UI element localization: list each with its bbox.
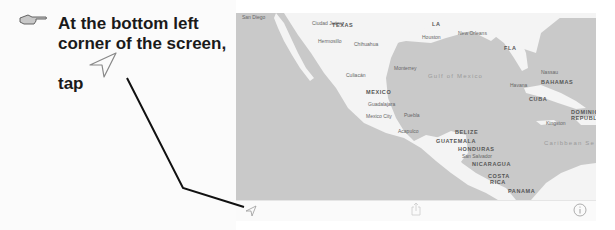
instruction-line-2: corner of the screen, <box>58 34 226 54</box>
city-label: Houston <box>422 34 441 40</box>
city-label: New Orleans <box>458 30 487 36</box>
region-label: GUATEMALA <box>436 138 476 144</box>
bottom-toolbar <box>236 200 596 221</box>
location-arrow-icon[interactable] <box>245 203 257 221</box>
region-label: LA <box>432 21 441 27</box>
city-label: Mexico City <box>366 113 392 119</box>
city-label: Kingston <box>546 120 565 126</box>
info-icon[interactable] <box>573 203 587 221</box>
city-label: Hermosillo <box>318 38 342 44</box>
share-icon[interactable] <box>411 202 421 220</box>
map-landmass <box>236 13 596 200</box>
region-label: NICARAGUA <box>472 161 511 167</box>
city-label: San Diego <box>242 14 265 20</box>
maps-screen: San Diego Ciudad Juárez Hermosillo Chihu… <box>236 13 596 220</box>
region-label: BELIZE <box>455 129 478 135</box>
pointing-hand-icon <box>18 12 48 32</box>
city-label: San Salvador <box>462 153 492 159</box>
water-label: Gulf of Mexico <box>428 73 483 79</box>
city-label: Monterrey <box>394 65 417 71</box>
water-label: Caribbean Se <box>544 140 595 146</box>
region-label: HONDURAS <box>458 146 495 152</box>
region-label: TEXAS <box>332 22 353 28</box>
tap-label: tap <box>58 74 84 94</box>
region-label: CUBA <box>529 96 547 102</box>
city-label: Acapulco <box>398 128 419 134</box>
city-label: Chihuahua <box>354 41 378 47</box>
location-arrow-icon <box>88 50 118 84</box>
city-label: Guadalajara <box>368 101 395 107</box>
city-label: Nassau <box>541 69 558 75</box>
region-label: DOMINICAN REPUBLIC <box>571 109 596 121</box>
instruction-panel: At the bottom left corner of the screen,… <box>0 0 236 230</box>
instruction-line-1: At the bottom left <box>58 14 226 34</box>
region-label: COSTA RICA <box>488 173 508 185</box>
region-label: PANAMA <box>508 188 535 194</box>
city-label: Puebla <box>404 112 420 118</box>
region-label: FLA <box>504 45 517 51</box>
region-label: MEXICO <box>366 89 391 95</box>
map-view[interactable]: San Diego Ciudad Juárez Hermosillo Chihu… <box>236 13 596 200</box>
region-label: BAHAMAS <box>541 79 573 85</box>
city-label: Culiacán <box>346 72 365 78</box>
city-label: Havana <box>510 82 527 88</box>
instruction-text: At the bottom left corner of the screen, <box>58 14 226 54</box>
